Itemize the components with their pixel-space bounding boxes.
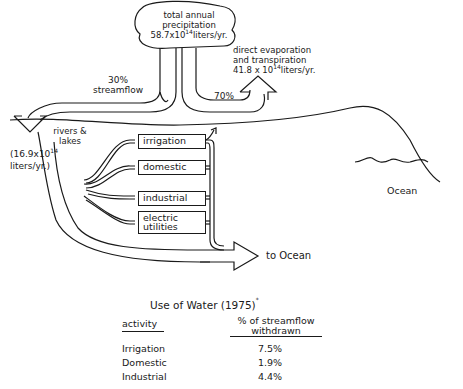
- use-box-electric-utilities: electric utilities: [138, 211, 206, 234]
- rivers-lakes-label: rivers & lakes: [46, 126, 94, 146]
- table-row: Irrigation Domestic Industrial: [122, 342, 167, 384]
- ocean-waves: [355, 158, 428, 163]
- to-ocean-arrow: [200, 242, 258, 270]
- use-box-domestic: domestic: [138, 160, 206, 175]
- table-header-percent: % of streamflow withdrawn: [230, 316, 322, 337]
- streamflow-label: 30% streamflow: [92, 75, 144, 95]
- table-title: Use of Water (1975)*: [150, 299, 259, 311]
- evaporation-percent: 70%: [214, 91, 234, 101]
- rivers-volume-label: (16.9x1014 liters/yr.): [10, 148, 58, 172]
- precipitation-label: total annual precipitation 58.7x1014lite…: [146, 10, 232, 40]
- use-box-industrial: industrial: [138, 191, 206, 206]
- table-header-activity: activity: [122, 317, 164, 332]
- to-ocean-label: to Ocean: [266, 251, 311, 261]
- table-values: 7.5% 1.9% 4.4%: [240, 342, 300, 384]
- use-box-irrigation: irrigation: [138, 134, 206, 149]
- evaporation-label: direct evaporation and transpiration 41.…: [233, 45, 315, 75]
- ocean-label: Ocean: [387, 186, 417, 196]
